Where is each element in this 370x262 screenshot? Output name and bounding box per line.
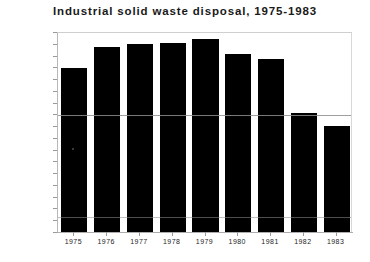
bar-1981 [258,59,284,232]
bar-1976 [94,47,120,232]
x-tick-mark-1980 [237,232,238,236]
bar-1983 [324,126,350,232]
bar-1975 [61,68,87,232]
bar-1978 [160,43,186,232]
plot-area [57,32,352,232]
x-tick-mark-1981 [270,232,271,236]
chart-figure: Industrial solid waste disposal, 1975-19… [0,0,370,262]
x-tick-mark-1978 [172,232,173,236]
x-tick-mark-1982 [303,232,304,236]
bar-1977 [127,44,153,232]
x-tick-mark-1975 [73,232,74,236]
scan-speck [72,148,74,150]
chart-title: Industrial solid waste disposal, 1975-19… [0,5,370,17]
x-tick-label-1983: 1983 [316,238,356,245]
bar-1979 [192,39,218,232]
bar-1980 [225,54,251,232]
x-tick-mark-1977 [139,232,140,236]
x-tick-mark-1976 [106,232,107,236]
x-tick-mark-1983 [336,232,337,236]
x-tick-mark-1979 [205,232,206,236]
bar-1982 [291,113,317,232]
